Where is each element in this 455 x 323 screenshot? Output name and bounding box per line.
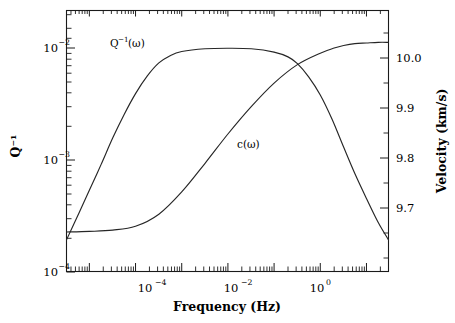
y2-tick-label-0: 10.0 <box>396 51 422 65</box>
x-tick-exp-2: 0 <box>326 278 331 287</box>
x-axis-ticks <box>71 263 389 272</box>
y-tick-exp-1: −3 <box>59 150 71 159</box>
y-tick-exp-2: −4 <box>59 262 71 271</box>
y-tick-label-1: 10 <box>43 153 58 167</box>
chart-svg: 10 −2 10 −3 10 −4 Q⁻¹ 10.0 9.9 <box>0 0 455 323</box>
right-axis-ticks <box>380 33 389 258</box>
y2-tick-label-3: 9.7 <box>396 201 414 215</box>
x-axis-title: Frequency (Hz) <box>173 299 281 314</box>
annotation-q-inverse: Q −1 (ω) <box>110 35 145 49</box>
annotation-q-tail: (ω) <box>128 37 145 49</box>
x-axis-tick-labels: 10 −4 10 −2 10 0 <box>138 278 331 295</box>
x-tick-exp-0: −4 <box>155 278 167 287</box>
x-tick-label-0: 10 <box>138 281 153 295</box>
plot-frame <box>67 11 389 272</box>
y2-axis-title-group: Velocity (km/s) <box>434 89 449 195</box>
curve-q-inverse <box>67 48 389 240</box>
right-axis-tick-labels: 10.0 9.9 9.8 9.7 <box>396 51 422 215</box>
y-tick-label-2: 10 <box>43 265 58 279</box>
y-axis-title-group: Q⁻¹ <box>8 135 23 158</box>
y2-tick-label-2: 9.8 <box>396 151 414 165</box>
y-tick-exp-0: −2 <box>59 38 71 47</box>
x-tick-exp-1: −2 <box>241 278 253 287</box>
figure-panel: 10 −2 10 −3 10 −4 Q⁻¹ 10.0 9.9 <box>0 0 455 323</box>
y-axis-title: Q⁻¹ <box>8 135 23 158</box>
left-axis-ticks <box>67 15 76 272</box>
annotation-c-omega: c(ω) <box>237 138 260 150</box>
x-tick-label-1: 10 <box>224 281 239 295</box>
x-tick-label-2: 10 <box>310 281 325 295</box>
curve-phase-velocity <box>67 42 389 232</box>
y2-axis-title: Velocity (km/s) <box>434 89 449 195</box>
x-axis-top-ticks <box>71 11 389 17</box>
y-tick-label-0: 10 <box>43 41 58 55</box>
y2-tick-label-1: 9.9 <box>396 101 414 115</box>
